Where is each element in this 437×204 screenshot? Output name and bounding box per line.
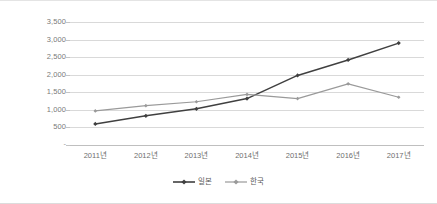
plot-series-area (0, 1, 437, 204)
legend-item-1[interactable]: 일본 (173, 177, 212, 186)
data-point-marker (194, 107, 198, 111)
series-line (95, 43, 398, 124)
chart-figure: 3,5003,0002,5002,0001,5001,000500- 2011년… (0, 0, 437, 204)
data-point-marker (397, 95, 401, 99)
data-point-marker (93, 122, 97, 126)
data-point-marker (144, 104, 148, 108)
data-point-marker (346, 58, 350, 62)
data-point-marker (93, 109, 97, 113)
legend-symbol-icon (173, 178, 195, 186)
series-1 (93, 41, 401, 126)
legend-symbol-icon (225, 178, 247, 186)
legend-label: 일본 (198, 177, 212, 186)
data-point-marker (245, 93, 249, 97)
data-point-marker (397, 41, 401, 45)
data-point-marker (195, 100, 199, 104)
legend-item-2[interactable]: 한국 (225, 177, 264, 186)
chart-legend: 일본한국 (0, 177, 437, 186)
legend-label: 한국 (250, 177, 264, 186)
data-point-marker (296, 97, 300, 101)
data-point-marker (144, 114, 148, 118)
data-point-marker (346, 82, 350, 86)
